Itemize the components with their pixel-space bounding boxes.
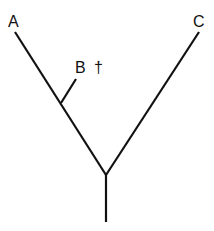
label-a: A [8,13,19,30]
extinct-dagger-icon: † [94,59,103,76]
cladogram: A B † C [0,0,214,231]
label-c: C [193,13,205,30]
branch-a [15,32,106,175]
branch-b [61,79,76,103]
branch-c [106,32,199,175]
label-b: B [75,59,86,76]
